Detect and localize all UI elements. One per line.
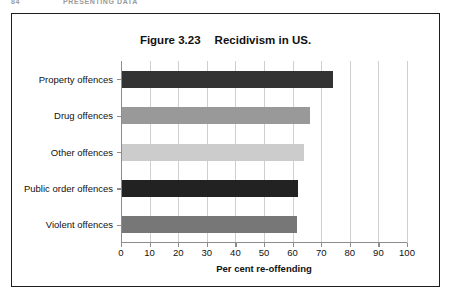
y-axis-tick xyxy=(117,188,121,189)
y-axis-category-label: Public order offences xyxy=(24,180,113,197)
y-axis-tick xyxy=(117,116,121,117)
bar xyxy=(121,216,297,233)
y-axis-category-label: Other offences xyxy=(51,144,113,161)
y-axis-tick xyxy=(117,152,121,153)
x-axis-tick-label: 90 xyxy=(373,247,384,258)
y-axis-tick xyxy=(117,79,121,80)
figure-title-text: Recidivism in US. xyxy=(215,34,312,46)
x-axis-tick-labels: 0102030405060708090100 xyxy=(121,247,421,261)
bar xyxy=(121,180,298,197)
y-axis-category-label: Violent offences xyxy=(46,216,113,233)
x-axis-tick-label: 30 xyxy=(202,247,213,258)
x-axis-tick-label: 70 xyxy=(316,247,327,258)
bar-series xyxy=(121,61,407,243)
x-axis-tick-label: 60 xyxy=(287,247,298,258)
y-axis-category-label: Drug offences xyxy=(54,107,113,124)
y-axis-category-label: Property offences xyxy=(39,71,113,88)
figure-page: 84PRESENTING DATA Figure 3.23Recidivism … xyxy=(0,0,452,293)
y-axis-tick xyxy=(117,225,121,226)
figure-frame: Figure 3.23Recidivism in US. Property of… xyxy=(11,13,440,287)
bar xyxy=(121,71,333,88)
y-axis-labels: Property offencesDrug offencesOther offe… xyxy=(12,61,121,243)
x-axis-tick-label: 20 xyxy=(173,247,184,258)
plot-area xyxy=(121,61,407,243)
x-axis-tick-label: 40 xyxy=(230,247,241,258)
page-running-header: 84PRESENTING DATA xyxy=(11,0,331,7)
gridline xyxy=(407,61,408,243)
x-axis-tick-label: 0 xyxy=(118,247,123,258)
y-axis-line xyxy=(121,61,122,243)
x-axis-title: Per cent re-offending xyxy=(121,263,407,274)
bar xyxy=(121,107,310,124)
figure-number: Figure 3.23 xyxy=(140,34,201,46)
bar xyxy=(121,144,304,161)
x-axis-tick-label: 100 xyxy=(399,247,415,258)
x-axis-tick-label: 10 xyxy=(144,247,155,258)
page-folio: 84 xyxy=(11,0,63,5)
running-head-text: PRESENTING DATA xyxy=(63,0,138,5)
x-axis-tick-label: 50 xyxy=(259,247,270,258)
x-axis-tick-label: 80 xyxy=(345,247,356,258)
figure-title: Figure 3.23Recidivism in US. xyxy=(12,34,439,46)
